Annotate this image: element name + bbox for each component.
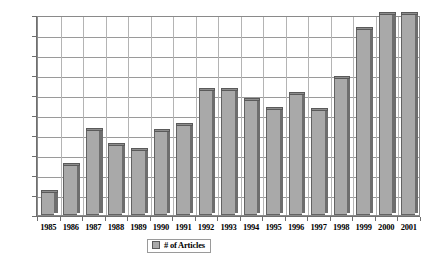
bar-side-face (212, 89, 215, 213)
category-separator (61, 17, 62, 215)
x-axis-tick (82, 217, 83, 221)
category-separator (151, 17, 152, 215)
bar-front-face (63, 166, 77, 215)
x-axis-tick (105, 217, 106, 221)
x-axis-tick (240, 217, 241, 221)
bar-front-face (86, 131, 100, 215)
bar (41, 190, 58, 215)
x-axis-label: 1990 (150, 223, 173, 232)
x-axis-label: 1995 (262, 223, 285, 232)
category-separator (196, 17, 197, 215)
y-axis-tick (32, 136, 37, 137)
bar-side-face (77, 164, 80, 213)
chart-legend: # of Articles (147, 239, 211, 253)
bar (63, 163, 80, 215)
bar (334, 76, 351, 215)
bar-side-face (392, 13, 395, 213)
x-axis-tick (375, 217, 376, 221)
x-axis-label: 2000 (375, 223, 398, 232)
bar-side-face (347, 77, 350, 213)
y-axis-tick (32, 96, 37, 97)
x-axis-tick (420, 217, 421, 221)
y-axis-tick (32, 36, 37, 37)
bar (86, 128, 103, 215)
bar-front-face (176, 126, 190, 215)
x-axis-label: 1996 (285, 223, 308, 232)
bar (379, 12, 396, 215)
x-axis-label: 1987 (82, 223, 105, 232)
bar-front-face (108, 146, 122, 215)
y-axis-tick (32, 16, 37, 17)
bar-front-face (131, 151, 145, 215)
bar-side-face (122, 144, 125, 213)
x-axis-label: 1992 (195, 223, 218, 232)
category-separator (106, 17, 107, 215)
bar-front-face (266, 110, 280, 215)
category-separator (398, 17, 399, 215)
bar-side-face (99, 129, 102, 213)
x-axis-tick (195, 217, 196, 221)
x-axis-label: 1985 (37, 223, 60, 232)
bar-front-face (289, 95, 303, 215)
x-axis-tick (397, 217, 398, 221)
bar (311, 108, 328, 215)
x-axis-label: 1993 (217, 223, 240, 232)
bar (221, 88, 238, 215)
x-axis-tick (150, 217, 151, 221)
bar-front-face (199, 91, 213, 215)
bar-front-face (221, 91, 235, 215)
bar (199, 88, 216, 215)
x-axis-label: 1997 (307, 223, 330, 232)
bar-front-face (244, 101, 258, 215)
bar-front-face (41, 193, 55, 215)
x-axis-label: 1991 (172, 223, 195, 232)
plot-area (37, 16, 420, 216)
y-axis-tick (32, 76, 37, 77)
category-separator (308, 17, 309, 215)
bar-side-face (235, 89, 238, 213)
bar (244, 98, 261, 215)
x-axis-label: 1994 (240, 223, 263, 232)
bar (401, 12, 418, 215)
category-separator (241, 17, 242, 215)
x-axis-tick (60, 217, 61, 221)
x-axis-label: 1999 (352, 223, 375, 232)
bar-side-face (415, 13, 418, 213)
bar-side-face (325, 109, 328, 213)
bar-side-face (280, 108, 283, 213)
bar-front-face (379, 15, 393, 215)
x-axis-label: 1988 (105, 223, 128, 232)
x-axis-tick (37, 217, 38, 221)
bar-side-face (167, 130, 170, 213)
category-separator (218, 17, 219, 215)
bar-front-face (334, 79, 348, 215)
category-separator (353, 17, 354, 215)
y-axis-tick (32, 56, 37, 57)
bar (289, 92, 306, 215)
bar-front-face (401, 15, 415, 215)
bar-side-face (190, 124, 193, 213)
x-axis-tick (285, 217, 286, 221)
x-axis-tick (262, 217, 263, 221)
x-axis-label: 1998 (330, 223, 353, 232)
bar-front-face (356, 30, 370, 215)
x-axis-label: 1989 (127, 223, 150, 232)
x-axis-tick (352, 217, 353, 221)
x-axis-line (36, 216, 420, 217)
bar (131, 148, 148, 215)
category-separator (173, 17, 174, 215)
bar (154, 129, 171, 215)
x-axis-tick (127, 217, 128, 221)
bar-front-face (311, 111, 325, 215)
y-axis-tick (32, 196, 37, 197)
category-separator (286, 17, 287, 215)
x-axis-tick (307, 217, 308, 221)
bar-side-face (54, 191, 57, 213)
category-separator (376, 17, 377, 215)
x-axis-label: 1986 (60, 223, 83, 232)
bar (266, 107, 283, 215)
category-separator (128, 17, 129, 215)
bar-chart: 01002003004005006007008009001000 1985198… (0, 0, 428, 265)
legend-swatch-icon (152, 241, 160, 249)
legend-label: # of Articles (164, 241, 205, 250)
